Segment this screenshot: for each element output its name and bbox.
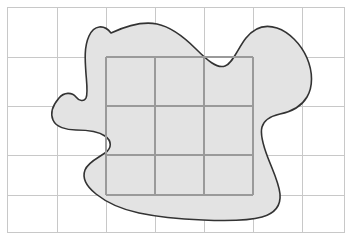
region-grid-diagram [0,0,352,250]
figure-container [0,0,352,250]
